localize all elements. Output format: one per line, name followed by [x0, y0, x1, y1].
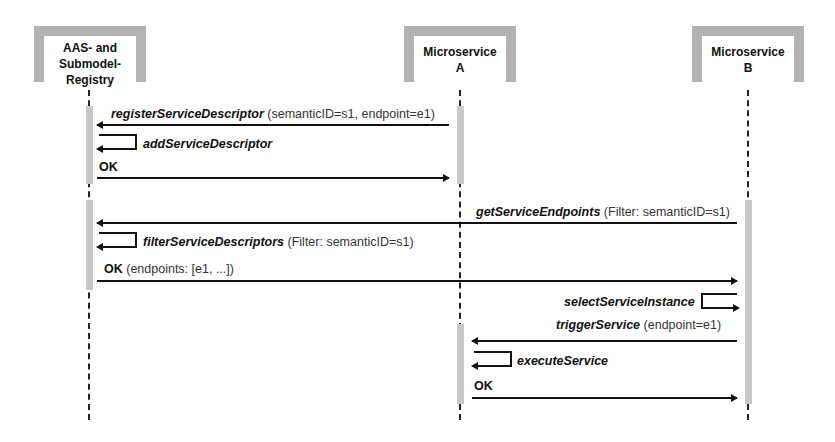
message-label-trigger-service: triggerService (endpoint=e1) [556, 318, 721, 333]
message-label-select-instance: selectServiceInstance [564, 295, 695, 310]
self-call-return-arrow-2 [97, 246, 137, 248]
activation-microservice-a-2 [457, 324, 464, 404]
activation-microservice-a-1 [457, 106, 464, 184]
activation-registry-1 [86, 106, 93, 184]
message-label-get-endpoints: getServiceEndpoints (Filter: semanticID=… [476, 205, 730, 220]
message-arrow-trigger-service [472, 340, 737, 342]
message-arrow-ok-1 [97, 177, 449, 179]
message-label-execute-service: executeService [517, 354, 608, 369]
message-label-filter-descriptors: filterServiceDescriptors (Filter: semant… [143, 235, 414, 250]
message-label-ok-3: OK [474, 379, 493, 394]
participant-label-registry: AAS- and Submodel- Registry [34, 40, 146, 88]
activation-registry-2 [86, 200, 93, 290]
message-arrow-get-endpoints [97, 222, 737, 224]
message-label-ok-1: OK [99, 160, 118, 175]
activation-microservice-b [745, 200, 752, 404]
self-call-return-arrow [97, 148, 137, 150]
message-label-register: registerServiceDescriptor (semanticID=s1… [111, 107, 435, 122]
participant-label-microservice-b: Microservice B [692, 44, 804, 76]
message-arrow-ok-3 [472, 397, 737, 399]
self-call-return-arrow-4 [472, 365, 512, 367]
message-label-add-descriptor: addServiceDescriptor [143, 137, 272, 152]
message-arrow-register [97, 124, 449, 126]
participant-label-microservice-a: Microservice A [404, 44, 516, 76]
self-call-return-arrow-3 [701, 307, 739, 309]
message-label-ok-2: OK (endpoints: [e1, ...]) [104, 262, 234, 277]
message-arrow-ok-2 [97, 280, 737, 282]
